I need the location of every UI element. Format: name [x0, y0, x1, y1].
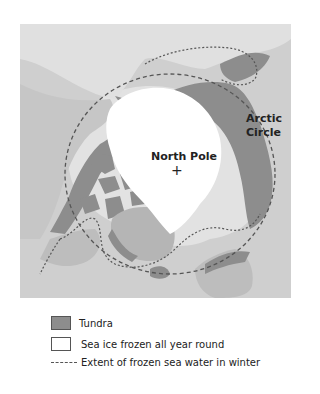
- arctic-circle-label-line1: Arctic: [246, 112, 282, 125]
- tundra-swatch-icon: [51, 316, 71, 330]
- north-pole-label: North Pole: [151, 150, 217, 163]
- arctic-map: North Pole + Arctic Circle: [20, 24, 291, 298]
- legend-label: Extent of frozen sea water in winter: [81, 357, 260, 368]
- legend-item-winter-extent: Extent of frozen sea water in winter: [51, 357, 260, 368]
- sea-ice-swatch-icon: [51, 337, 71, 351]
- legend-item-tundra: Tundra: [51, 316, 113, 330]
- north-pole-marker-icon: +: [171, 164, 183, 177]
- dashed-line-icon: [51, 362, 77, 363]
- legend-label: Sea ice frozen all year round: [81, 339, 224, 350]
- legend-label: Tundra: [79, 318, 113, 329]
- legend-item-sea-ice: Sea ice frozen all year round: [51, 337, 224, 351]
- arctic-circle-label-line2: Circle: [246, 126, 281, 139]
